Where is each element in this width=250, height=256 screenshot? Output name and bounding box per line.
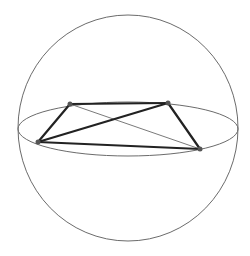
edge-AB xyxy=(70,103,168,104)
sphere-diagram xyxy=(0,0,250,256)
vertex-D xyxy=(198,147,203,152)
edge-BD xyxy=(168,103,200,149)
vertex-C xyxy=(36,140,41,145)
equator-ellipse xyxy=(18,102,238,156)
vertex-A xyxy=(68,102,73,107)
vertex-B xyxy=(166,101,171,106)
quadrilateral-edges xyxy=(38,103,200,149)
edge-CB xyxy=(38,103,168,142)
edge-CD xyxy=(38,142,200,149)
